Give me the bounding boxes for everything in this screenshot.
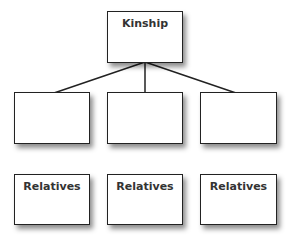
middle-node-2 — [107, 92, 183, 144]
relatives-node-label: Relatives — [15, 180, 89, 193]
relatives-node-3: Relatives — [200, 174, 277, 225]
relatives-node-2: Relatives — [107, 174, 183, 225]
root-node-label: Kinship — [108, 17, 182, 30]
relatives-node-1: Relatives — [14, 174, 90, 225]
root-node-kinship: Kinship — [107, 11, 183, 63]
middle-node-3 — [200, 92, 277, 144]
relatives-node-label: Relatives — [201, 180, 276, 193]
relatives-node-label: Relatives — [108, 180, 182, 193]
middle-node-1 — [14, 92, 90, 144]
